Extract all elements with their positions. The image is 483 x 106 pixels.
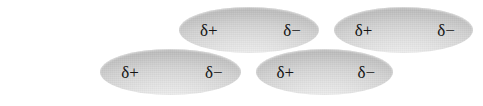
dipole-molecule-top-left: δ+ δ− xyxy=(179,7,319,53)
partial-negative-charge-label: δ− xyxy=(205,64,223,81)
partial-positive-charge-label: δ+ xyxy=(121,64,139,81)
partial-negative-charge-label: δ− xyxy=(437,22,455,39)
partial-positive-charge-label: δ+ xyxy=(200,22,218,39)
partial-positive-charge-label: δ+ xyxy=(355,22,373,39)
dipole-molecule-bottom-left: δ+ δ− xyxy=(100,49,241,95)
dipole-diagram: δ+ δ− δ+ δ− δ+ δ− δ+ δ− xyxy=(0,0,483,106)
partial-positive-charge-label: δ+ xyxy=(277,64,295,81)
partial-negative-charge-label: δ− xyxy=(358,64,376,81)
partial-negative-charge-label: δ− xyxy=(283,22,301,39)
dipole-molecule-bottom-right: δ+ δ− xyxy=(256,49,393,95)
dipole-molecule-top-right: δ+ δ− xyxy=(334,7,473,53)
